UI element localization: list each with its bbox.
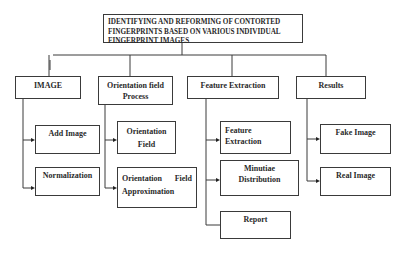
title-box: IDENTIFYING AND REFORMING OF CONTORTED F… [103, 14, 303, 43]
node-fake-image-label: Fake Image [335, 128, 375, 137]
module-orientation-process: Orientation field Process [98, 76, 173, 105]
node-minutiae-line-1: Minutiae [221, 163, 298, 174]
module-feature-extraction: Feature Extraction [187, 76, 279, 99]
node-real-image-label: Real Image [336, 171, 375, 180]
node-fake-image: Fake Image [320, 124, 391, 154]
node-minutiae-distribution: Minutiae Distribution [220, 160, 299, 196]
node-add-image: Add Image [35, 125, 100, 154]
node-add-image-label: Add Image [48, 129, 86, 138]
title-line-1: IDENTIFYING AND REFORMING OF CONTORTED [108, 18, 302, 28]
node-minutiae-line-2: Distribution [221, 174, 298, 185]
node-report: Report [220, 211, 291, 239]
node-ofa-line-1-right: Field [175, 172, 192, 185]
node-ofa-line-2: Approximation [122, 185, 192, 198]
module-orientation-label-1: Orientation field [99, 80, 172, 91]
node-ofa-line-1-left: Orientation [122, 172, 162, 185]
node-orientation-field-line-1: Orientation [118, 125, 175, 138]
module-orientation-label-2: Process [99, 91, 172, 102]
module-results: Results [296, 76, 366, 99]
node-orientation-field: Orientation Field [117, 121, 176, 154]
module-feature-label: Feature Extraction [201, 81, 266, 90]
title-line-3: FINGERPRINT IMAGES [108, 37, 302, 47]
node-normalization: Normalization [35, 167, 100, 196]
node-report-label: Report [221, 214, 290, 225]
module-image-label: IMAGE [34, 81, 62, 90]
module-results-label: Results [319, 81, 344, 90]
node-feature-sub-line-1: Feature [225, 125, 286, 136]
node-real-image: Real Image [320, 167, 391, 196]
node-feature-extraction-sub: Feature Extraction [220, 121, 291, 154]
node-feature-sub-line-2: Extraction [225, 136, 286, 147]
node-orientation-field-line-2: Field [118, 138, 175, 151]
node-normalization-label: Normalization [43, 171, 92, 180]
title-line-2: FINGERPRINTS BASED ON VARIOUS INDIVIDUAL [108, 28, 302, 38]
module-image: IMAGE [15, 76, 81, 99]
node-orientation-field-approximation: Orientation Field Approximation [117, 167, 197, 208]
